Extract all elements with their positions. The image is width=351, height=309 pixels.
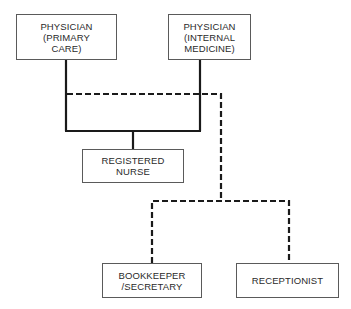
dashed-line-physicians-to-staff: [67, 94, 221, 201]
box-label-line: /SECRETARY: [122, 281, 183, 292]
box-label-line: PHYSICIAN: [40, 21, 92, 32]
box-label-line: BOOKKEEPER: [119, 270, 186, 281]
box-label-line: REGISTERED: [102, 155, 165, 166]
box-label-line: PHYSICIAN: [183, 21, 235, 32]
box-physician-primary-care: PHYSICIAN (PRIMARY CARE): [16, 14, 117, 60]
box-label-line: (PRIMARY: [43, 32, 90, 43]
box-receptionist: RECEPTIONIST: [236, 263, 339, 298]
dashed-line-staff-branch: [152, 201, 289, 263]
box-label-line: (INTERNAL: [184, 32, 235, 43]
box-label-line: MEDICINE): [184, 43, 235, 54]
box-physician-internal-medicine: PHYSICIAN (INTERNAL MEDICINE): [168, 14, 251, 60]
box-label-line: NURSE: [116, 166, 150, 177]
box-label-line: CARE): [51, 43, 81, 54]
box-bookkeeper-secretary: BOOKKEEPER /SECRETARY: [102, 263, 202, 298]
box-registered-nurse: REGISTERED NURSE: [82, 149, 184, 183]
box-label-line: RECEPTIONIST: [252, 275, 323, 286]
